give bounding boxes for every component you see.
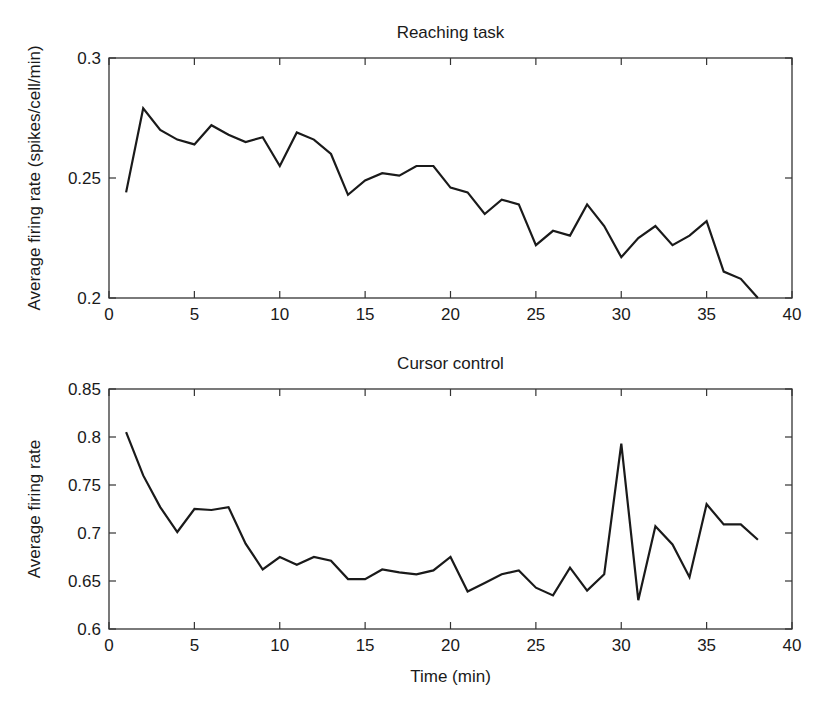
x-tick-label: 25 (526, 636, 545, 655)
x-tick-label: 20 (441, 305, 460, 324)
x-tick-label: 5 (190, 636, 199, 655)
x-tick-label: 40 (783, 636, 802, 655)
reaching-task-line (126, 108, 758, 298)
cursor-control-line (126, 432, 758, 600)
y-tick-label: 0.65 (68, 572, 101, 591)
x-tick-label: 15 (356, 636, 375, 655)
x-tick-label: 30 (612, 636, 631, 655)
cursor-control-plot: Cursor control Average firing rate Time … (25, 354, 801, 686)
y-tick-label: 0.85 (68, 380, 101, 399)
x-tick-label: 40 (783, 305, 802, 324)
cursor-control-title: Cursor control (397, 354, 504, 373)
reaching-task-axes: 05101520253035400.20.250.3 (68, 49, 802, 324)
y-tick-label: 0.75 (68, 476, 101, 495)
x-tick-label: 15 (356, 305, 375, 324)
y-tick-label: 0.2 (77, 289, 101, 308)
y-tick-label: 0.3 (77, 49, 101, 68)
time-xlabel: Time (min) (410, 667, 491, 686)
y-tick-label: 0.25 (68, 169, 101, 188)
x-tick-label: 10 (270, 636, 289, 655)
x-tick-label: 5 (190, 305, 199, 324)
x-tick-label: 35 (697, 305, 716, 324)
x-tick-label: 10 (270, 305, 289, 324)
reaching-task-title: Reaching task (397, 23, 505, 42)
reaching-task-plot: Reaching task Average firing rate (spike… (25, 23, 801, 324)
cursor-control-ylabel: Average firing rate (25, 440, 44, 579)
cursor-control-axes: 05101520253035400.60.650.70.750.80.85 (68, 380, 802, 655)
x-tick-label: 20 (441, 636, 460, 655)
reaching-task-ylabel: Average firing rate (spikes/cell/min) (25, 45, 44, 310)
y-tick-label: 0.8 (77, 428, 101, 447)
x-tick-label: 25 (526, 305, 545, 324)
y-tick-label: 0.7 (77, 524, 101, 543)
figure: Reaching task Average firing rate (spike… (0, 0, 825, 708)
x-tick-label: 0 (104, 636, 113, 655)
x-tick-label: 35 (697, 636, 716, 655)
y-tick-label: 0.6 (77, 620, 101, 639)
x-tick-label: 0 (104, 305, 113, 324)
x-tick-label: 30 (612, 305, 631, 324)
plot-frame (109, 58, 792, 298)
